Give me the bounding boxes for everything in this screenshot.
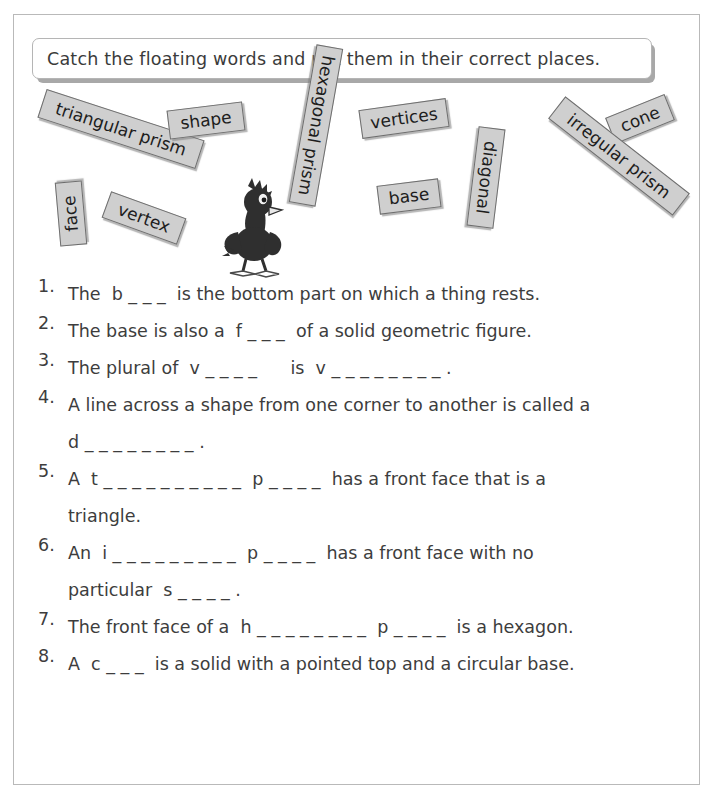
question-text: An i _ _ _ _ _ _ _ _ _ p _ _ _ _ has a f… xyxy=(68,535,668,572)
question-number: 7. xyxy=(38,609,62,629)
question-number: 8. xyxy=(38,646,62,666)
question-text-continuation: d _ _ _ _ _ _ _ _ . xyxy=(68,424,668,461)
word-tile[interactable]: vertices xyxy=(358,98,449,139)
question-text: The b _ _ _ is the bottom part on which … xyxy=(68,276,668,313)
question-number: 5. xyxy=(38,461,62,481)
question-text: A t _ _ _ _ _ _ _ _ _ _ p _ _ _ _ has a … xyxy=(68,461,668,498)
word-bank: triangular prismshapehexagonal prismvert… xyxy=(0,92,715,282)
instruction-banner: Catch the floating words and put them in… xyxy=(32,38,652,79)
question-text: A line across a shape from one corner to… xyxy=(68,387,668,424)
question-text: The plural of v _ _ _ _ is v _ _ _ _ _ _… xyxy=(68,350,668,387)
question-text-continuation: particular s _ _ _ _ . xyxy=(68,572,668,609)
word-tile[interactable]: face xyxy=(55,180,87,246)
worksheet-page: Catch the floating words and put them in… xyxy=(0,0,715,795)
question-number: 3. xyxy=(38,350,62,370)
question-text-continuation: triangle. xyxy=(68,498,668,535)
question-text: The front face of a h _ _ _ _ _ _ _ _ p … xyxy=(68,609,668,646)
question-row: 4.A line across a shape from one corner … xyxy=(38,387,668,461)
question-row: 2.The base is also a f _ _ _ of a solid … xyxy=(38,313,668,350)
word-tile[interactable]: shape xyxy=(167,101,246,139)
question-number: 2. xyxy=(38,313,62,333)
question-row: 6.An i _ _ _ _ _ _ _ _ _ p _ _ _ _ has a… xyxy=(38,535,668,609)
crow-mascot-icon xyxy=(208,176,300,280)
question-row: 1.The b _ _ _ is the bottom part on whic… xyxy=(38,276,668,313)
question-number: 4. xyxy=(38,387,62,407)
word-tile[interactable]: diagonal xyxy=(467,126,506,229)
question-row: 8.A c _ _ _ is a solid with a pointed to… xyxy=(38,646,668,683)
question-number: 1. xyxy=(38,276,62,296)
question-row: 3.The plural of v _ _ _ _ is v _ _ _ _ _… xyxy=(38,350,668,387)
question-text: The base is also a f _ _ _ of a solid ge… xyxy=(68,313,668,350)
question-row: 7.The front face of a h _ _ _ _ _ _ _ _ … xyxy=(38,609,668,646)
word-tile[interactable]: base xyxy=(376,178,441,214)
question-list: 1.The b _ _ _ is the bottom part on whic… xyxy=(38,276,668,683)
word-tile[interactable]: vertex xyxy=(102,191,187,245)
question-row: 5.A t _ _ _ _ _ _ _ _ _ _ p _ _ _ _ has … xyxy=(38,461,668,535)
question-number: 6. xyxy=(38,535,62,555)
question-text: A c _ _ _ is a solid with a pointed top … xyxy=(68,646,668,683)
